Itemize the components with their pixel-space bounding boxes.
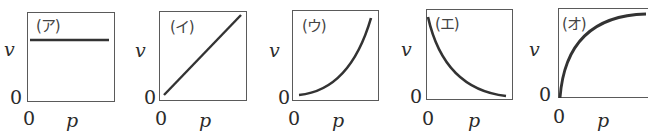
x-axis-label: p bbox=[468, 111, 480, 130]
x-origin-label: 0 bbox=[155, 109, 167, 128]
y-axis-label: v bbox=[4, 40, 15, 59]
y-axis-label: v bbox=[529, 40, 540, 59]
graph-panel-e: v 0 0 p (エ) bbox=[385, 0, 515, 135]
graph-panel-u: v 0 0 p (ウ) bbox=[255, 0, 385, 135]
y-axis-label: v bbox=[135, 41, 146, 60]
x-axis-label: p bbox=[597, 111, 609, 130]
curve-concave-increasing bbox=[558, 8, 646, 98]
graph-panel-i: v 0 0 p (イ) bbox=[130, 0, 260, 135]
curve-constant bbox=[27, 12, 115, 102]
y-origin-label: 0 bbox=[278, 88, 290, 107]
y-axis-label: v bbox=[269, 41, 280, 60]
x-origin-label: 0 bbox=[553, 107, 565, 126]
x-origin-label: 0 bbox=[23, 109, 35, 128]
x-origin-label: 0 bbox=[422, 109, 434, 128]
curve-linear bbox=[159, 11, 247, 101]
x-axis-label: p bbox=[199, 111, 211, 130]
x-origin-label: 0 bbox=[288, 109, 300, 128]
y-origin-label: 0 bbox=[10, 88, 22, 107]
y-axis-label: v bbox=[401, 40, 412, 59]
y-origin-label: 0 bbox=[144, 88, 156, 107]
curve-convex-increasing bbox=[292, 10, 379, 101]
graph-panel-a: v 0 0 p (ア) bbox=[0, 0, 130, 135]
x-axis-label: p bbox=[66, 111, 78, 130]
y-origin-label: 0 bbox=[539, 85, 551, 104]
y-origin-label: 0 bbox=[410, 87, 422, 106]
graph-panel-o: v 0 0 p (オ) bbox=[505, 0, 641, 135]
x-axis-label: p bbox=[332, 111, 344, 130]
curve-decreasing bbox=[426, 9, 513, 100]
